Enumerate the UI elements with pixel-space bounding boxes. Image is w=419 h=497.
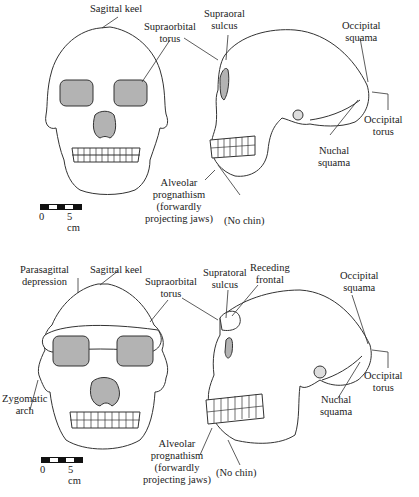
label-top-alveolar-prognathism: Alveolar prognathism (forwardly projecti… bbox=[145, 177, 213, 225]
label-line: Occipital bbox=[340, 270, 378, 282]
label-top-occipital-squama: Occipital squama bbox=[342, 20, 380, 44]
label-line: Nuchal bbox=[320, 394, 352, 406]
label-top-supraorbital-torus: Supraorbital torus bbox=[144, 21, 196, 45]
label-line: squama bbox=[342, 32, 380, 44]
label-line: arch bbox=[2, 405, 48, 417]
label-top-sagittal-keel: Sagittal keel bbox=[90, 3, 142, 15]
scale-end: 5 cm bbox=[67, 211, 85, 233]
label-bottom-nuchal-squama: Nuchal squama bbox=[320, 394, 352, 418]
scale-start: 0 bbox=[40, 464, 45, 475]
label-line: Supratoral bbox=[203, 267, 247, 279]
label-line: prognathism bbox=[145, 189, 213, 201]
label-line: (forwardly bbox=[145, 201, 213, 213]
label-line: torus bbox=[364, 126, 402, 138]
label-top-supraoral-sulcus: Supraoral sulcus bbox=[204, 8, 245, 32]
label-line: projecting jaws) bbox=[143, 474, 211, 486]
label-line: Nuchal bbox=[318, 145, 350, 157]
label-line: sulcus bbox=[204, 20, 245, 32]
skull-illustrations bbox=[0, 0, 419, 497]
label-line: Zygomatic bbox=[2, 393, 48, 405]
label-line: (forwardly bbox=[143, 462, 211, 474]
label-bottom-receding-frontal: Receding frontal bbox=[250, 262, 290, 286]
label-top-no-chin: (No chin) bbox=[224, 215, 265, 227]
label-bottom-zygomatic-arch: Zygomatic arch bbox=[2, 393, 48, 417]
top-frontal-skull bbox=[46, 27, 168, 195]
scale-end: 5 cm bbox=[68, 464, 86, 486]
label-line: Alveolar bbox=[143, 438, 211, 450]
scale-start: 0 bbox=[39, 211, 44, 222]
label-line: sulcus bbox=[203, 279, 247, 291]
label-line: Supraorbital bbox=[144, 21, 196, 33]
label-line: Supraoral bbox=[204, 8, 245, 20]
label-line: torus bbox=[145, 288, 197, 300]
label-line: Occipital bbox=[364, 114, 402, 126]
label-line: squama bbox=[340, 282, 378, 294]
label-bottom-sagittal-keel: Sagittal keel bbox=[90, 264, 142, 276]
label-line: depression bbox=[20, 276, 69, 288]
label-bottom-occipital-squama: Occipital squama bbox=[340, 270, 378, 294]
bottom-frontal-skull bbox=[38, 284, 167, 449]
label-line: squama bbox=[318, 157, 350, 169]
label-top-nuchal-squama: Nuchal squama bbox=[318, 145, 350, 169]
scale-bar-top: 0 5 cm bbox=[40, 204, 85, 224]
label-line: torus bbox=[144, 33, 196, 45]
label-line: Supraorbital bbox=[145, 276, 197, 288]
label-line: prognathism bbox=[143, 450, 211, 462]
label-line: Parasagittal bbox=[20, 264, 69, 276]
label-bottom-supratoral-sulcus: Supratoral sulcus bbox=[203, 267, 247, 291]
label-bottom-occipital-torus: Occipital torus bbox=[364, 370, 402, 394]
label-bottom-supraorbital-torus: Supraorbital torus bbox=[145, 276, 197, 300]
label-line: squama bbox=[320, 406, 352, 418]
label-top-occipital-torus: Occipital torus bbox=[364, 114, 402, 138]
label-line: Alveolar bbox=[145, 177, 213, 189]
label-bottom-parasagittal-depression: Parasagittal depression bbox=[20, 264, 69, 288]
label-line: torus bbox=[364, 382, 402, 394]
label-bottom-no-chin: (No chin) bbox=[216, 467, 257, 479]
label-bottom-alveolar-prognathism: Alveolar prognathism (forwardly projecti… bbox=[143, 438, 211, 486]
scale-bar-graphic bbox=[41, 457, 83, 463]
scale-bar-bottom: 0 5 cm bbox=[41, 457, 86, 477]
label-line: Occipital bbox=[342, 20, 380, 32]
label-line: Occipital bbox=[364, 370, 402, 382]
label-line: frontal bbox=[250, 274, 290, 286]
bottom-lateral-skull bbox=[206, 290, 371, 443]
scale-bar-graphic bbox=[40, 204, 82, 210]
label-line: projecting jaws) bbox=[145, 213, 213, 225]
label-line: Receding bbox=[250, 262, 290, 274]
